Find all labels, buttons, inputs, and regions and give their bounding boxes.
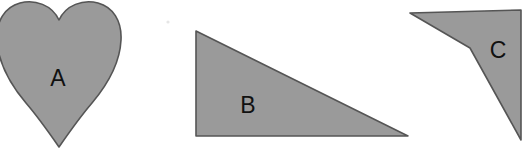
shape-label-b: B bbox=[240, 92, 255, 118]
shapes-canvas: A B C bbox=[0, 0, 530, 153]
shapes-figure: A B C bbox=[0, 0, 530, 153]
shape-label-c: C bbox=[490, 37, 507, 63]
shape-label-a: A bbox=[50, 65, 66, 91]
dust-speck-icon bbox=[166, 20, 169, 23]
